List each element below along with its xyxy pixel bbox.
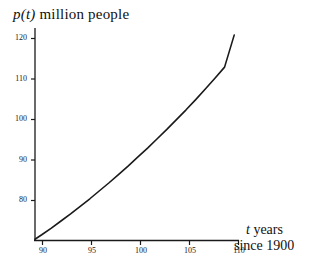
y-tick-label-80: 80 bbox=[5, 195, 27, 204]
y-tick-label-90: 90 bbox=[5, 155, 27, 164]
y-tick-label-120: 120 bbox=[5, 33, 27, 42]
x-tick-label-95: 95 bbox=[82, 246, 102, 255]
x-tick-label-90: 90 bbox=[33, 246, 53, 255]
population-growth-chart: p(t) million people 120 110 100 90 80 bbox=[0, 0, 318, 270]
x-axis-epoch: since 1900 bbox=[234, 238, 294, 254]
y-tick-label-100: 100 bbox=[5, 114, 27, 123]
y-tick-label-110: 110 bbox=[5, 74, 27, 83]
x-axis-variable: t bbox=[246, 222, 250, 237]
data-curve-series-0 bbox=[35, 35, 234, 239]
x-tick-label-100: 100 bbox=[131, 246, 151, 255]
x-axis-title: t years since 1900 bbox=[246, 222, 294, 254]
x-axis-units: years bbox=[253, 222, 283, 237]
x-tick-label-105: 105 bbox=[180, 246, 200, 255]
